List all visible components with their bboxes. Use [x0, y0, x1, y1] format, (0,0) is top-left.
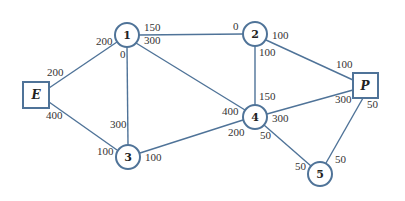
cap-14-at-4: 400: [222, 105, 239, 117]
cap-E1-at-E: 200: [47, 66, 64, 78]
cap-13-at-3: 300: [110, 118, 127, 130]
node-1-label: 1: [123, 29, 131, 42]
cap-34-at-3: 100: [145, 151, 162, 163]
cap-45-at-5: 50: [295, 160, 307, 172]
node-4-label: 4: [251, 111, 259, 124]
cap-45-at-4: 50: [260, 129, 272, 141]
edge-1-3: [127, 47, 128, 145]
cap-4P-at-P: 300: [335, 93, 352, 105]
cap-E1-at-1: 200: [96, 35, 113, 47]
edge-E-1: [49, 42, 117, 88]
node-E-label: E: [30, 88, 41, 102]
cap-2P-at-2: 100: [272, 29, 289, 41]
network-diagram: E 1 2 3 4 5 P 200 200 400 100 150 0 0 30…: [0, 0, 405, 201]
cap-34-at-4: 200: [228, 126, 245, 138]
cap-E3-at-E: 400: [46, 109, 63, 121]
cap-E3-at-3: 100: [97, 145, 114, 157]
cap-12-at-1: 150: [144, 21, 161, 33]
node-P-label: P: [359, 79, 370, 93]
node-5-label: 5: [316, 168, 324, 181]
cap-24-at-4: 150: [259, 90, 276, 102]
cap-12-at-2: 0: [233, 20, 239, 32]
edge-1-4: [136, 43, 245, 110]
cap-2P-at-P: 100: [336, 58, 353, 70]
cap-24-at-2: 100: [259, 46, 276, 58]
cap-P5-at-5: 50: [335, 153, 347, 165]
cap-P5-at-P: 50: [367, 98, 379, 110]
node-3-label: 3: [124, 151, 132, 164]
node-2-label: 2: [251, 28, 259, 41]
cap-14-at-1: 300: [144, 34, 161, 46]
cap-13-at-1: 0: [120, 48, 126, 60]
cap-4P-at-4: 300: [272, 112, 289, 124]
